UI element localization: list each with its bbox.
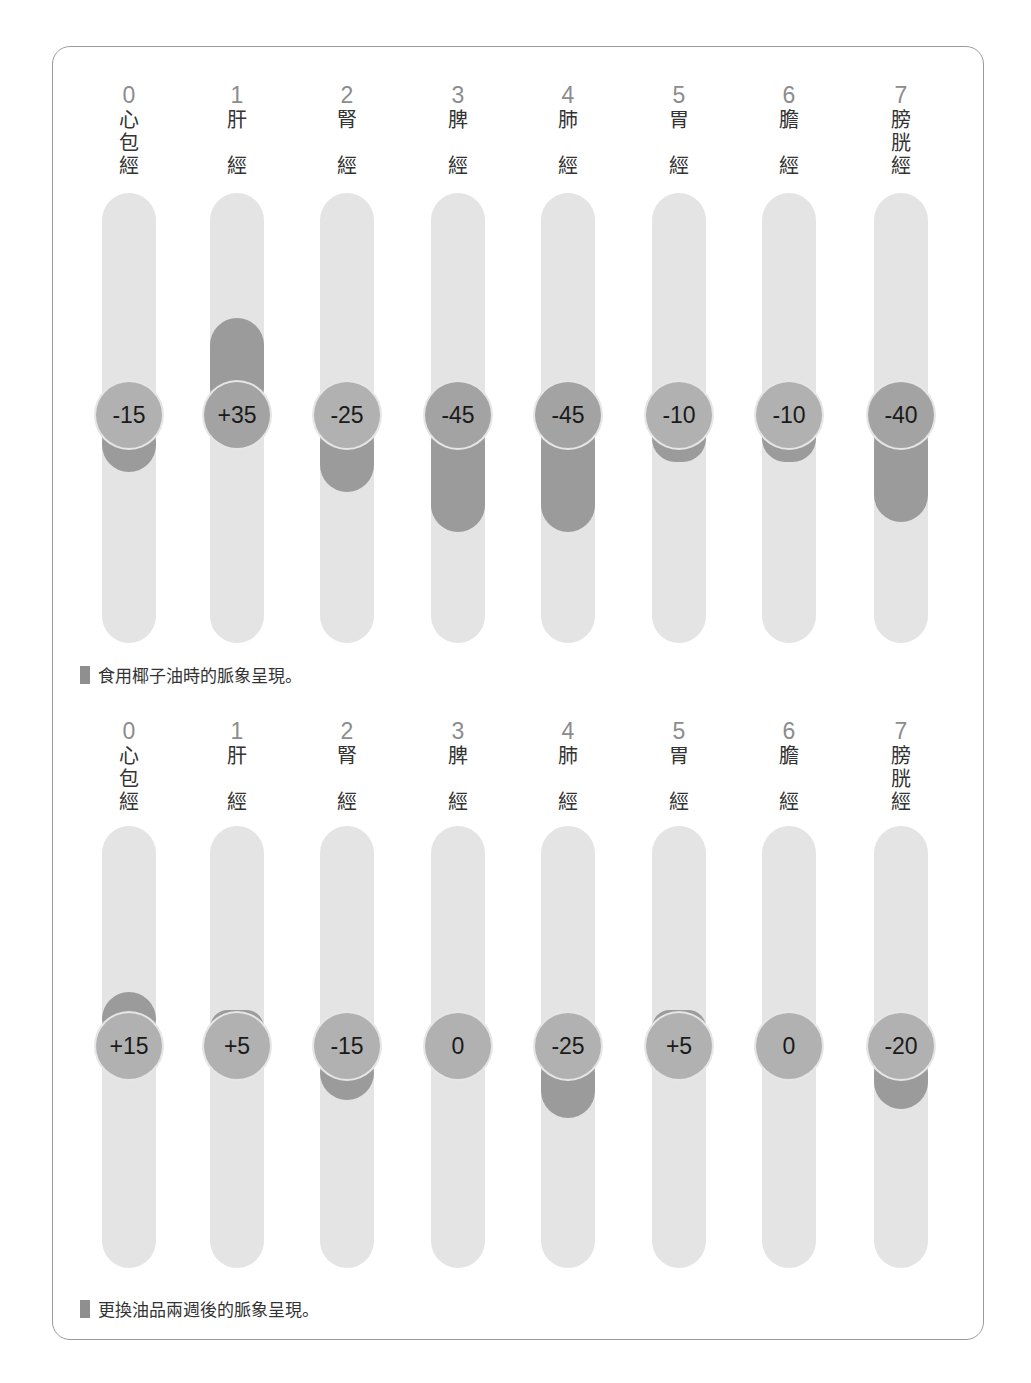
meridian-name-char: 脾 bbox=[418, 745, 498, 768]
meridian-name-char: 胱 bbox=[861, 132, 941, 155]
meridian-name: 肝經 bbox=[197, 109, 277, 178]
meridian-name-char: 經 bbox=[639, 155, 719, 178]
meridian-name-char: 腎 bbox=[307, 109, 387, 132]
meridian-name-char bbox=[418, 768, 498, 791]
meridian-name-char: 肺 bbox=[528, 109, 608, 132]
meridian-index: 7 bbox=[861, 718, 941, 744]
meridian-name-char: 經 bbox=[89, 791, 169, 814]
caption-text: 更換油品兩週後的脈象呈現。 bbox=[98, 1296, 319, 1321]
meridian-name-char: 胃 bbox=[639, 109, 719, 132]
meridian-name-char: 經 bbox=[749, 791, 829, 814]
meridian-name-char bbox=[418, 132, 498, 155]
meridian-index: 4 bbox=[528, 82, 608, 108]
meridian-name-char bbox=[639, 768, 719, 791]
meridian-index: 5 bbox=[639, 718, 719, 744]
value-knob: -15 bbox=[314, 1013, 380, 1079]
meridian-index: 3 bbox=[418, 718, 498, 744]
caption-text: 食用椰子油時的脈象呈現。 bbox=[98, 662, 302, 687]
value-knob: -15 bbox=[96, 382, 162, 448]
value-knob: -45 bbox=[425, 382, 491, 448]
meridian-name: 心包經 bbox=[89, 109, 169, 178]
meridian-name: 腎經 bbox=[307, 109, 387, 178]
value-knob: -45 bbox=[535, 382, 601, 448]
caption-marker-icon bbox=[80, 1300, 90, 1318]
meridian-name-char bbox=[197, 768, 277, 791]
value-knob: +35 bbox=[204, 382, 270, 448]
meridian-name-char bbox=[528, 768, 608, 791]
meridian-name-char: 經 bbox=[418, 155, 498, 178]
meridian-index: 0 bbox=[89, 82, 169, 108]
meridian-name-char: 包 bbox=[89, 132, 169, 155]
meridian-name-char: 肺 bbox=[528, 745, 608, 768]
value-knob: -40 bbox=[868, 382, 934, 448]
meridian-name-char bbox=[307, 132, 387, 155]
value-knob: -20 bbox=[868, 1013, 934, 1079]
meridian-name: 肝經 bbox=[197, 745, 277, 814]
value-knob: -25 bbox=[314, 382, 380, 448]
meridian-name-char: 心 bbox=[89, 745, 169, 768]
value-knob: +5 bbox=[204, 1013, 270, 1079]
meridian-name-char: 經 bbox=[307, 791, 387, 814]
meridian-name-char: 經 bbox=[418, 791, 498, 814]
meridian-index: 0 bbox=[89, 718, 169, 744]
meridian-name-char: 胱 bbox=[861, 768, 941, 791]
meridian-name: 胃經 bbox=[639, 745, 719, 814]
meridian-name-char bbox=[528, 132, 608, 155]
meridian-name-char bbox=[749, 132, 829, 155]
meridian-name-char: 包 bbox=[89, 768, 169, 791]
meridian-index: 5 bbox=[639, 82, 719, 108]
value-knob: -10 bbox=[646, 382, 712, 448]
meridian-name: 脾經 bbox=[418, 109, 498, 178]
meridian-name: 胃經 bbox=[639, 109, 719, 178]
value-knob: 0 bbox=[756, 1013, 822, 1079]
meridian-name-char bbox=[749, 768, 829, 791]
meridian-name-char: 肝 bbox=[197, 109, 277, 132]
meridian-index: 6 bbox=[749, 82, 829, 108]
value-knob: 0 bbox=[425, 1013, 491, 1079]
meridian-name-char: 經 bbox=[197, 791, 277, 814]
meridian-name: 膽經 bbox=[749, 745, 829, 814]
chart-caption: 食用椰子油時的脈象呈現。 bbox=[80, 662, 302, 687]
meridian-name-char: 經 bbox=[861, 791, 941, 814]
value-knob: +5 bbox=[646, 1013, 712, 1079]
meridian-name: 肺經 bbox=[528, 109, 608, 178]
value-knob: -10 bbox=[756, 382, 822, 448]
meridian-name-char bbox=[307, 768, 387, 791]
meridian-name: 膽經 bbox=[749, 109, 829, 178]
meridian-name-char: 經 bbox=[861, 155, 941, 178]
meridian-name-char: 經 bbox=[639, 791, 719, 814]
meridian-name-char bbox=[639, 132, 719, 155]
meridian-name-char: 脾 bbox=[418, 109, 498, 132]
meridian-name-char: 經 bbox=[749, 155, 829, 178]
chart-caption: 更換油品兩週後的脈象呈現。 bbox=[80, 1296, 319, 1321]
meridian-index: 2 bbox=[307, 82, 387, 108]
meridian-name: 心包經 bbox=[89, 745, 169, 814]
meridian-name-char bbox=[197, 132, 277, 155]
chart-frame bbox=[52, 46, 984, 1340]
meridian-name-char: 經 bbox=[197, 155, 277, 178]
meridian-index: 1 bbox=[197, 718, 277, 744]
meridian-index: 7 bbox=[861, 82, 941, 108]
meridian-index: 3 bbox=[418, 82, 498, 108]
meridian-name-char: 胃 bbox=[639, 745, 719, 768]
meridian-name: 脾經 bbox=[418, 745, 498, 814]
meridian-index: 1 bbox=[197, 82, 277, 108]
meridian-name-char: 腎 bbox=[307, 745, 387, 768]
meridian-name: 膀胱經 bbox=[861, 745, 941, 814]
meridian-name-char: 膀 bbox=[861, 745, 941, 768]
meridian-name: 膀胱經 bbox=[861, 109, 941, 178]
meridian-name: 腎經 bbox=[307, 745, 387, 814]
meridian-name-char: 肝 bbox=[197, 745, 277, 768]
meridian-name-char: 膀 bbox=[861, 109, 941, 132]
meridian-name: 肺經 bbox=[528, 745, 608, 814]
meridian-name-char: 膽 bbox=[749, 109, 829, 132]
caption-marker-icon bbox=[80, 666, 90, 684]
meridian-name-char: 經 bbox=[307, 155, 387, 178]
meridian-index: 4 bbox=[528, 718, 608, 744]
meridian-name-char: 心 bbox=[89, 109, 169, 132]
value-knob: +15 bbox=[96, 1013, 162, 1079]
meridian-name-char: 經 bbox=[528, 155, 608, 178]
value-knob: -25 bbox=[535, 1013, 601, 1079]
meridian-index: 2 bbox=[307, 718, 387, 744]
meridian-index: 6 bbox=[749, 718, 829, 744]
